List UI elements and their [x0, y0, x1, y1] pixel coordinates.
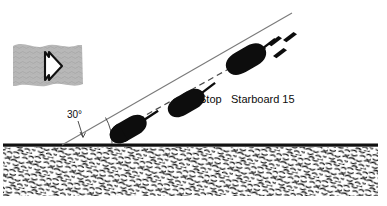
- wake-marks: [267, 31, 298, 59]
- seabed-shoreline: [3, 144, 378, 197]
- approach-track-line: [62, 13, 292, 145]
- manoeuvre-diagram: Stop Starboard 15 30°: [0, 0, 387, 206]
- vessel-upper: [222, 32, 282, 80]
- current-indicator-patch: [10, 42, 86, 90]
- shoreline-surface: [3, 144, 378, 147]
- label-starboard-15: Starboard 15: [231, 94, 295, 105]
- label-approach-angle: 30°: [67, 110, 82, 120]
- label-stop: Stop: [199, 94, 222, 105]
- vessel-lower: [106, 103, 163, 147]
- diagram-canvas: [0, 0, 387, 206]
- vessel-middle-rudder: [201, 83, 216, 93]
